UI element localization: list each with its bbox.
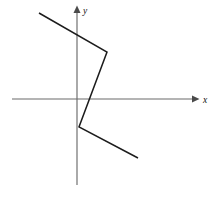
x-axis-arrowhead bbox=[192, 96, 200, 103]
figure-container: x y bbox=[0, 0, 220, 197]
y-axis-label: y bbox=[82, 6, 88, 16]
y-axis-arrowhead bbox=[74, 6, 81, 14]
piecewise-linear-curve bbox=[39, 13, 138, 158]
x-axis-label: x bbox=[202, 95, 208, 105]
graph-canvas: x y bbox=[0, 0, 220, 197]
